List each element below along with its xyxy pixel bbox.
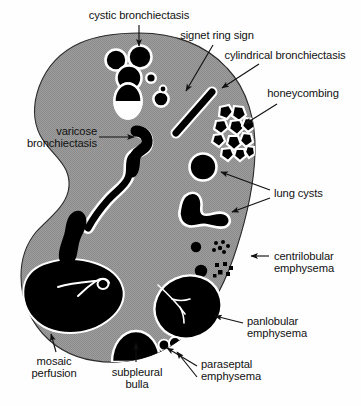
- label-signet-ring-sign: signet ring sign: [175, 29, 259, 41]
- lung-cyst-round: [190, 154, 217, 181]
- leader-paraseptal-emphysema-a: [167, 348, 197, 366]
- leader-panlobular-emphysema: [215, 316, 243, 323]
- label-centrilobular-emphysema: centrilobular emphysema: [274, 250, 360, 275]
- label-subpleural-bulla: subpleural bulla: [102, 366, 172, 391]
- label-panlobular-emphysema: panlobular emphysema: [247, 315, 331, 340]
- label-honeycombing: honeycombing: [262, 87, 344, 99]
- label-varicose-bronchiectasis: varicose bronchiectasis: [6, 125, 97, 150]
- label-cylindrical-bronchiectasis: cylindrical bronchiectasis: [212, 49, 358, 61]
- label-mosaic-perfusion: mosaic perfusion: [20, 355, 88, 380]
- label-lung-cysts: lung cysts: [274, 187, 344, 199]
- label-paraseptal-emphysema: paraseptal emphysema: [201, 358, 285, 383]
- lung-pattern-diagram: cystic bronchiectasis signet ring sign c…: [0, 0, 361, 406]
- label-cystic-bronchiectasis: cystic bronchiectasis: [77, 9, 201, 21]
